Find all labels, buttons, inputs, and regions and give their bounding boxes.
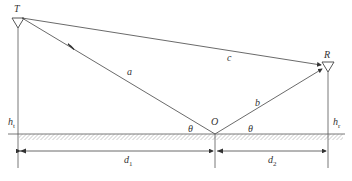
path-a [22,18,215,134]
angle-right-label: θ [248,124,253,134]
distance-d2-label: d2 [268,155,277,168]
path-c-label: c [227,53,231,63]
rx-height-subscript: r [338,122,340,130]
direct-path-c [22,18,321,65]
path-b [215,69,322,134]
ground [8,134,345,140]
distance-d1-label: d1 [124,155,133,168]
path-b-label: b [255,98,260,108]
receiver-label: R [324,50,330,60]
reflection-point-label: O [211,117,218,127]
tx-height-label: ht [8,117,15,130]
transmitter-label: T [14,4,20,14]
rx-height-label: hr [333,117,340,130]
d1-subscript: 1 [129,160,133,168]
angle-left-label: θ [188,124,193,134]
transmitter-antenna-icon [12,18,24,168]
d2-subscript: 2 [273,160,277,168]
receiver-antenna-icon [322,62,334,168]
path-a-arrow [68,44,74,50]
two-ray-diagram [0,0,352,181]
path-a-label: a [127,67,132,77]
tx-height-subscript: t [13,122,15,130]
